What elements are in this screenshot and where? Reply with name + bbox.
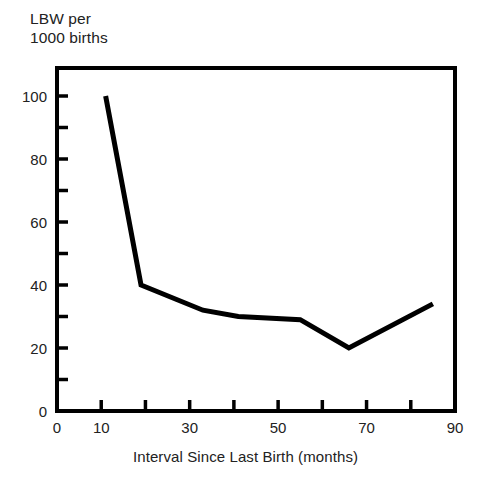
svg-text:70: 70 xyxy=(358,419,375,436)
svg-text:30: 30 xyxy=(181,419,198,436)
data-series-line xyxy=(106,96,433,348)
svg-text:40: 40 xyxy=(30,277,47,294)
svg-text:80: 80 xyxy=(30,151,47,168)
line-chart-plot: 020406080100 01030507090 xyxy=(0,0,491,485)
x-axis-tick-labels: 01030507090 xyxy=(53,419,464,436)
y-axis-tick-labels: 020406080100 xyxy=(22,88,47,420)
svg-text:60: 60 xyxy=(30,214,47,231)
svg-text:10: 10 xyxy=(93,419,110,436)
svg-text:50: 50 xyxy=(270,419,287,436)
svg-text:0: 0 xyxy=(53,419,61,436)
chart-figure: LBW per 1000 births 020406080100 0103050… xyxy=(0,0,491,485)
plot-frame xyxy=(57,68,455,411)
svg-text:20: 20 xyxy=(30,340,47,357)
svg-text:100: 100 xyxy=(22,88,47,105)
svg-text:0: 0 xyxy=(39,403,47,420)
svg-text:90: 90 xyxy=(447,419,464,436)
x-axis-title: Interval Since Last Birth (months) xyxy=(0,448,491,465)
